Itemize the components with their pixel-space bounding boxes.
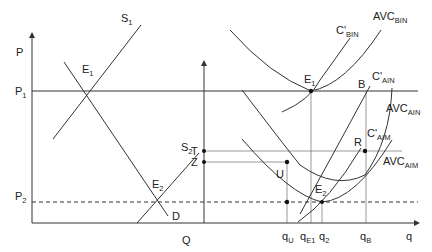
p1-label: P1 <box>15 85 27 100</box>
avc-aim-label: AVCAIM <box>383 155 418 170</box>
e1-left-label: E1 <box>82 63 94 78</box>
y-axis-label: P <box>16 46 23 58</box>
q-small-axis-label: q <box>406 230 412 242</box>
qb-tick-label: qB <box>360 230 371 245</box>
d-curve <box>64 62 168 216</box>
point-e1-right <box>309 89 313 93</box>
c-aim-label: C'AIM <box>367 127 390 142</box>
right-x-axis <box>204 220 420 226</box>
qu-tick-label: qU <box>282 230 294 245</box>
s1-label: S1 <box>121 12 133 27</box>
d-label: D <box>172 210 180 222</box>
e2-left-label: E2 <box>152 178 164 193</box>
economics-diagram: P P1 P2 S1 S2 D E1 E2 T Z Q C'BIN AVCBIN… <box>0 0 432 252</box>
point-u <box>285 160 289 164</box>
point-qu-p2 <box>285 200 289 204</box>
c-ain-label: C'AIN <box>372 70 395 85</box>
q2-tick-label: q2 <box>319 230 329 245</box>
c-bin-curve <box>282 38 350 112</box>
point-z <box>202 160 206 164</box>
s2-curve <box>137 153 199 223</box>
c-aim-curve <box>298 148 361 222</box>
z-label: Z <box>191 156 198 168</box>
middle-axis <box>201 60 207 223</box>
r-label: R <box>354 136 362 148</box>
avc-bin-label: AVCBIN <box>373 10 407 25</box>
qe1-tick-label: qE1 <box>300 230 315 245</box>
left-axes <box>29 32 204 223</box>
b-label: B <box>358 78 365 90</box>
point-e2-right <box>320 200 324 204</box>
c-bin-label: C'BIN <box>336 24 359 39</box>
point-t <box>202 149 206 153</box>
e2-right-label: E2 <box>315 183 327 198</box>
avc-ain-label: AVCAIN <box>386 102 420 117</box>
point-r <box>363 149 367 153</box>
e1-right-label: E1 <box>304 73 316 88</box>
q-axis-label: Q <box>182 234 191 246</box>
u-label: U <box>276 168 284 180</box>
s1-curve <box>53 25 141 139</box>
p2-label: P2 <box>15 190 27 205</box>
